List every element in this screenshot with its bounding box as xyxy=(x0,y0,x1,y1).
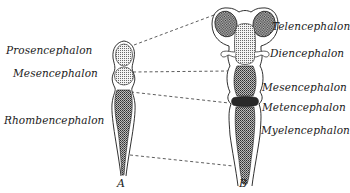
label-mesencephalon-a: Mesencephalon xyxy=(13,67,98,79)
label-telencephalon: Telencephalon xyxy=(272,20,350,32)
label-myelencephalon: Myelencephalon xyxy=(261,124,350,136)
embryo-a-three-vesicle xyxy=(112,41,135,176)
label-mesencephalon-b: Mesencephalon xyxy=(262,81,347,93)
label-prosencephalon: Prosencephalon xyxy=(6,44,92,56)
brain-vesicles-diagram: Prosencephalon Mesencephalon Rhombenceph… xyxy=(0,0,350,193)
label-metencephalon: Metencephalon xyxy=(262,101,346,113)
label-rhombencephalon: Rhombencephalon xyxy=(4,114,104,126)
panel-letter-b: B xyxy=(239,177,247,190)
label-diencephalon: Diencephalon xyxy=(270,47,344,59)
panel-letter-a: A xyxy=(117,177,125,190)
embryo-b-five-vesicle xyxy=(212,8,278,186)
